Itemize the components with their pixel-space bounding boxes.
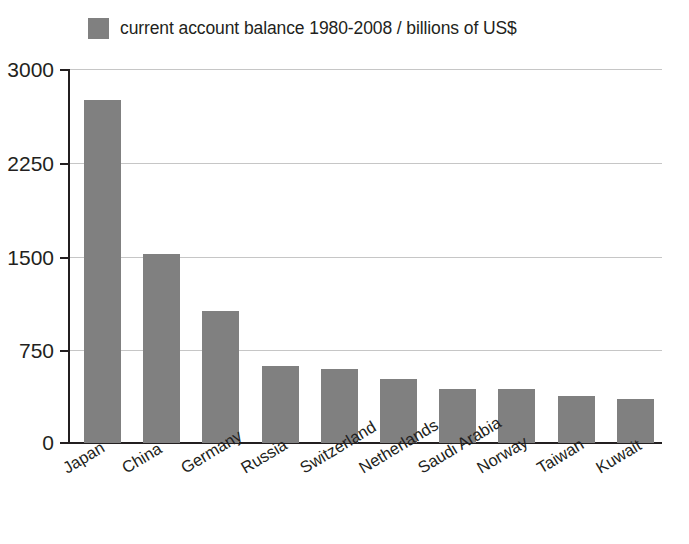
legend-swatch-icon: [88, 18, 109, 39]
x-axis-label-china: China: [119, 440, 164, 476]
bar-japan: [84, 100, 121, 443]
legend-label: current account balance 1980-2008 / bill…: [120, 20, 517, 38]
gridline-3000: [68, 69, 662, 70]
bar-china: [143, 254, 180, 443]
y-tick-mark-0: [60, 442, 69, 444]
bar-germany: [202, 311, 239, 443]
y-tick-mark-2250: [60, 163, 69, 165]
y-axis-label-2250: 2250: [7, 153, 60, 174]
gridline-2250: [68, 163, 662, 164]
y-axis-label-750: 750: [19, 340, 60, 361]
bar-russia: [262, 366, 299, 443]
y-tick-mark-3000: [60, 69, 69, 71]
x-axis-label-japan: Japan: [60, 439, 107, 476]
bar-chart: 3000 2250 1500 750 0 JapanChinaGermanyRu…: [0, 0, 689, 544]
y-axis-label-0: 0: [42, 432, 60, 453]
legend: current account balance 1980-2008 / bill…: [88, 18, 517, 39]
y-tick-mark-750: [60, 350, 69, 352]
y-axis-label-3000: 3000: [7, 59, 60, 80]
y-axis-label-1500: 1500: [7, 247, 60, 268]
y-tick-mark-1500: [60, 257, 69, 259]
